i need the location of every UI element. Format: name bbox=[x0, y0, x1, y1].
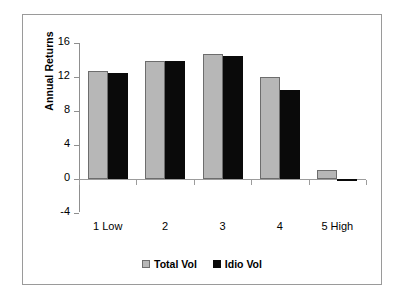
x-axis-tick bbox=[309, 180, 310, 185]
legend-swatch-icon bbox=[142, 260, 150, 268]
chart-legend: Total VolIdio Vol bbox=[23, 258, 381, 270]
legend-item: Idio Vol bbox=[213, 258, 262, 270]
y-axis-tick-label: 12 bbox=[30, 69, 70, 81]
bar-group bbox=[203, 43, 243, 215]
bar-idio-vol bbox=[280, 90, 300, 179]
x-axis-tick bbox=[251, 180, 252, 185]
y-axis-tick: 16 bbox=[74, 43, 79, 44]
y-axis-tick-label: 4 bbox=[30, 137, 70, 149]
y-axis-tick: 8 bbox=[74, 111, 79, 112]
legend-label: Total Vol bbox=[154, 258, 197, 270]
bar-idio-vol bbox=[108, 73, 128, 179]
x-axis-tick bbox=[79, 180, 80, 185]
bar-total-vol bbox=[145, 61, 165, 179]
y-axis-tick-label: 0 bbox=[30, 171, 70, 183]
x-axis-labels: 1 Low2345 High bbox=[79, 220, 366, 236]
x-axis-tick bbox=[366, 180, 367, 185]
bar-group bbox=[260, 43, 300, 215]
y-axis-line bbox=[79, 43, 80, 212]
y-axis-tick-label: 8 bbox=[30, 103, 70, 115]
y-axis-tick-label: -4 bbox=[30, 205, 70, 217]
legend-swatch-icon bbox=[213, 260, 221, 268]
plot-area: 1612840-4 bbox=[79, 43, 366, 215]
x-axis-tick bbox=[194, 180, 195, 185]
x-axis-label: 2 bbox=[136, 220, 193, 232]
bar-total-vol bbox=[317, 170, 337, 179]
bar-total-vol bbox=[203, 54, 223, 179]
y-axis-tick: 4 bbox=[74, 145, 79, 146]
bar-group bbox=[88, 43, 128, 215]
bar-idio-vol bbox=[337, 179, 357, 181]
x-axis-tick bbox=[136, 180, 137, 185]
chart-figure: Annual Returns 1612840-4 1 Low2345 High … bbox=[22, 14, 382, 285]
bar-idio-vol bbox=[165, 61, 185, 179]
x-axis-label: 5 High bbox=[309, 220, 366, 232]
bar-total-vol bbox=[88, 71, 108, 179]
bar-group bbox=[317, 43, 357, 215]
bar-idio-vol bbox=[223, 56, 243, 179]
x-axis-label: 1 Low bbox=[79, 220, 136, 232]
x-axis-label: 3 bbox=[194, 220, 251, 232]
y-axis-tick-label: 16 bbox=[30, 35, 70, 47]
legend-item: Total Vol bbox=[142, 258, 197, 270]
bar-total-vol bbox=[260, 77, 280, 179]
legend-label: Idio Vol bbox=[225, 258, 262, 270]
y-axis-tick: 12 bbox=[74, 77, 79, 78]
x-axis-label: 4 bbox=[251, 220, 308, 232]
bar-group bbox=[145, 43, 185, 215]
y-axis-tick: -4 bbox=[74, 213, 79, 214]
